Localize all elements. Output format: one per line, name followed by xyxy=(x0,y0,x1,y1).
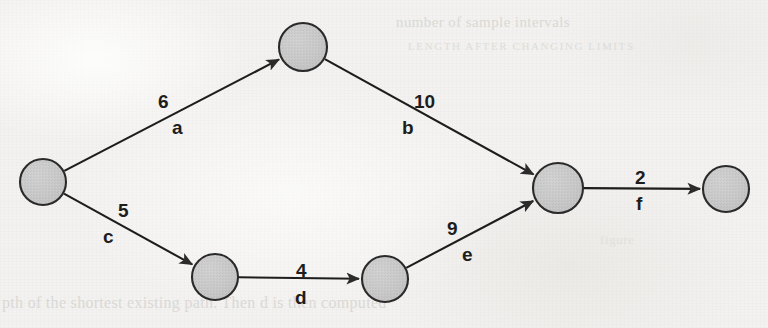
edge-name-d: d xyxy=(295,287,307,309)
edge-weight-a: 6 xyxy=(158,91,169,113)
edge-name-f: f xyxy=(636,193,642,215)
edge-name-a: a xyxy=(172,117,183,139)
figure-canvas: number of sample intervals LENGTH AFTER … xyxy=(0,0,768,328)
edge-name-e: e xyxy=(462,244,473,266)
graph-edge-a xyxy=(64,59,279,170)
edge-weight-f: 2 xyxy=(635,167,646,189)
edge-name-b: b xyxy=(402,117,414,139)
graph-node-n4 xyxy=(533,163,583,213)
edge-weight-c: 5 xyxy=(118,200,129,222)
edge-weight-b: 10 xyxy=(414,91,435,113)
graph-node-n3 xyxy=(362,256,408,302)
graph-node-n1 xyxy=(279,23,327,71)
edge-weight-e: 9 xyxy=(447,218,458,240)
graph-diagram xyxy=(0,0,768,328)
graph-node-n5 xyxy=(703,166,749,212)
graph-node-n0 xyxy=(20,159,66,205)
graph-edge-b xyxy=(325,59,534,174)
edge-weight-d: 4 xyxy=(296,260,307,282)
edge-name-c: c xyxy=(103,226,114,248)
graph-node-n2 xyxy=(192,254,238,300)
nodes-layer xyxy=(20,23,749,302)
